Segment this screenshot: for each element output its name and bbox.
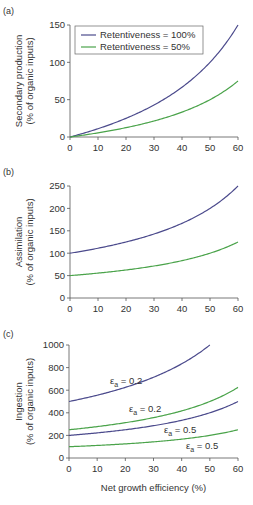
panel-label: (a) — [3, 6, 14, 16]
y-axis-label-units: (% of organic inputs) — [24, 358, 35, 445]
x-tick-label: 0 — [67, 142, 72, 153]
y-axis-label: Assimilation — [13, 217, 24, 268]
panel-label: (c) — [3, 329, 14, 339]
figure: (a)0501001500102030405060Secondary produ… — [0, 0, 253, 505]
x-tick-label: 10 — [93, 303, 104, 314]
x-tick-label: 50 — [205, 142, 216, 153]
panel-a: (a)0501001500102030405060Secondary produ… — [3, 6, 243, 153]
y-tick-label: 100 — [49, 57, 65, 68]
series-line — [70, 186, 238, 253]
x-tick-label: 40 — [176, 463, 187, 474]
y-axis-label: Ingestion — [13, 382, 24, 421]
curve-annotation: εa = 0.2 — [129, 403, 161, 416]
x-tick-label: 50 — [205, 303, 216, 314]
x-tick-label: 60 — [233, 142, 244, 153]
y-tick-label: 0 — [59, 452, 64, 463]
y-tick-label: 150 — [49, 19, 65, 30]
y-tick-label: 150 — [49, 225, 65, 236]
x-tick-label: 0 — [67, 303, 72, 314]
x-tick-label: 30 — [149, 303, 160, 314]
x-tick-label: 20 — [121, 303, 132, 314]
y-tick-label: 200 — [49, 203, 65, 214]
legend: Retentiveness = 100%Retentiveness = 50% — [75, 26, 203, 54]
x-tick-label: 10 — [93, 142, 104, 153]
x-tick-label: 40 — [177, 303, 188, 314]
y-axis-label: Secondary production — [13, 35, 24, 127]
x-tick-label: 60 — [233, 463, 244, 474]
y-axis-label-units: (% of organic inputs) — [24, 37, 35, 124]
legend-entry: Retentiveness = 50% — [100, 41, 191, 52]
y-axis-label-units: (% of organic inputs) — [24, 198, 35, 285]
x-tick-label: 30 — [149, 142, 160, 153]
x-tick-label: 20 — [121, 142, 132, 153]
panel-b: (b)0501001502002500102030405060Assimilat… — [3, 167, 243, 314]
y-tick-label: 50 — [54, 270, 65, 281]
x-tick-label: 20 — [120, 463, 131, 474]
x-tick-label: 60 — [233, 303, 244, 314]
legend-entry: Retentiveness = 100% — [100, 29, 196, 40]
y-tick-label: 0 — [60, 292, 65, 303]
series-line — [69, 345, 210, 402]
x-tick-label: 10 — [92, 463, 103, 474]
y-tick-label: 1000 — [43, 339, 64, 350]
y-tick-label: 250 — [49, 180, 65, 191]
x-axis-label: Net growth efficiency (%) — [101, 482, 206, 493]
y-tick-label: 800 — [48, 362, 64, 373]
x-tick-label: 50 — [205, 463, 216, 474]
series-line — [70, 242, 238, 276]
y-tick-label: 400 — [48, 407, 64, 418]
y-tick-label: 50 — [54, 94, 65, 105]
y-tick-label: 100 — [49, 248, 65, 259]
curve-annotation: εa = 0.5 — [186, 440, 218, 453]
curve-annotation: εa = 0.2 — [110, 375, 142, 388]
x-tick-label: 30 — [148, 463, 159, 474]
x-tick-label: 0 — [66, 463, 71, 474]
y-tick-label: 0 — [60, 131, 65, 142]
series-line — [70, 81, 238, 137]
y-tick-label: 600 — [48, 385, 64, 396]
panel-c: (c)020040060080010000102030405060Ingesti… — [3, 329, 243, 493]
x-tick-label: 40 — [177, 142, 188, 153]
curve-annotation: εa = 0.5 — [164, 424, 196, 437]
panel-label: (b) — [3, 167, 14, 177]
y-tick-label: 200 — [48, 430, 64, 441]
